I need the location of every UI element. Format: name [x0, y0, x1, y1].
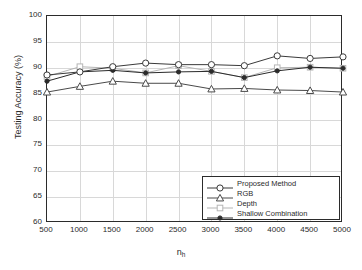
data-point-dot-filled — [341, 66, 345, 70]
x-axis-label: nh — [0, 247, 362, 258]
legend-item[interactable]: Depth — [206, 199, 336, 209]
legend-label: Shallow Combination — [237, 209, 307, 219]
x-tick-label: 5000 — [322, 226, 362, 234]
series-line — [47, 81, 343, 92]
data-point-dot-filled — [218, 216, 222, 220]
data-point-dot-filled — [275, 69, 279, 73]
y-tick-label: 80 — [20, 115, 42, 123]
legend-box: Proposed MethodRGBDepthShallow Combinati… — [202, 176, 340, 220]
data-point-circle-open — [143, 60, 149, 66]
data-point-dot-filled — [209, 69, 213, 73]
y-tick-label: 70 — [20, 166, 42, 174]
series-rgb — [43, 78, 346, 95]
data-point-circle-open — [175, 62, 181, 68]
series-line — [47, 67, 343, 81]
data-point-circle-open — [110, 64, 116, 70]
legend-label: Depth — [237, 199, 257, 209]
data-point-dot-filled — [308, 65, 312, 69]
data-point-circle-open — [274, 53, 280, 59]
y-tick-label: 85 — [20, 89, 42, 97]
y-tick-label: 100 — [20, 11, 42, 19]
data-point-circle-open — [307, 55, 313, 61]
y-tick-label: 65 — [20, 192, 42, 200]
data-point-dot-filled — [144, 71, 148, 75]
legend-item[interactable]: Shallow Combination — [206, 209, 336, 219]
legend-sample-triangle-open — [206, 189, 234, 199]
legend-sample-circle-open — [206, 179, 234, 189]
data-point-circle-open — [208, 62, 214, 68]
data-point-circle-open — [340, 54, 346, 60]
series-proposed-method — [44, 53, 346, 78]
data-point-dot-filled — [45, 79, 49, 83]
legend-sample-dot-filled — [206, 209, 234, 219]
legend-label: RGB — [237, 189, 253, 199]
x-axis-label-subscript: h — [182, 251, 186, 258]
data-point-dot-filled — [176, 70, 180, 74]
figure-canvas: Testing Accuracy (%) 1009590858075706560… — [0, 0, 362, 270]
y-tick-label: 90 — [20, 63, 42, 71]
series-shallow-combination — [45, 65, 345, 83]
data-point-circle-open — [241, 63, 247, 69]
data-point-dot-filled — [242, 75, 246, 79]
data-point-circle-open — [77, 69, 83, 75]
legend-sample-square-open — [206, 199, 234, 209]
data-point-circle-open — [44, 72, 50, 78]
y-tick-label: 95 — [20, 37, 42, 45]
legend-label: Proposed Method — [237, 179, 296, 189]
legend-item[interactable]: RGB — [206, 189, 336, 199]
legend-item[interactable]: Proposed Method — [206, 179, 336, 189]
y-tick-label: 75 — [20, 140, 42, 148]
